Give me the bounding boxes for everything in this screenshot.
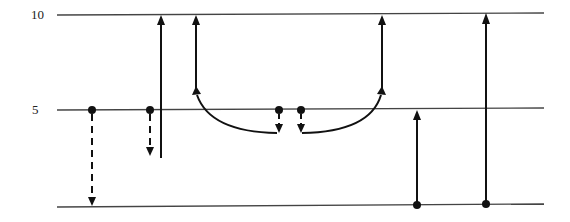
diagram-canvas	[0, 0, 570, 222]
transition-dashed-down-4	[275, 106, 283, 133]
level-line-10	[57, 13, 544, 15]
transition-dashed-down-1	[88, 106, 96, 206]
transition-solid-up-9	[482, 13, 490, 208]
transition-diagram: 10 5	[0, 0, 570, 222]
transition-dashed-down-6	[297, 106, 305, 133]
transition-curve-right	[302, 15, 386, 133]
transition-dashed-down-2	[146, 106, 154, 156]
level-line-0	[57, 204, 544, 207]
transition-solid-up-8	[413, 110, 421, 209]
transition-solid-up-3	[157, 15, 165, 158]
transition-curve-left	[192, 15, 277, 133]
